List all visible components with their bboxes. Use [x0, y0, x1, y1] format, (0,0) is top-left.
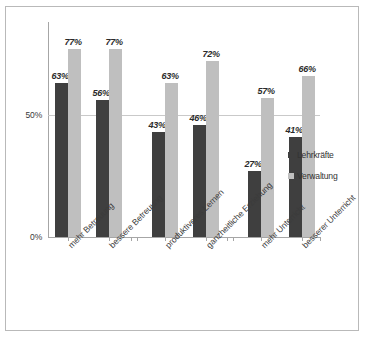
legend-label-lehrkraefte: Lehrkräfte — [297, 150, 334, 160]
legend-item-lehrkraefte[interactable]: Lehrkräfte — [288, 150, 362, 160]
bar-verwaltung-4 — [261, 98, 274, 237]
bar-value-label-lehrkraefte-1: 56% — [93, 88, 110, 98]
legend-label-verwaltung: Verwaltung — [297, 171, 338, 181]
bar-value-label-lehrkraefte-2: 43% — [149, 120, 166, 130]
bar-value-label-lehrkraefte-4: 27% — [245, 159, 262, 169]
bar-value-label-lehrkraefte-5: 41% — [286, 125, 303, 135]
bar-value-label-lehrkraefte-0: 63% — [52, 71, 69, 81]
bar-value-label-verwaltung-5: 66% — [299, 64, 316, 74]
bar-value-label-verwaltung-1: 77% — [106, 37, 123, 47]
bar-value-label-verwaltung-2: 63% — [162, 71, 179, 81]
legend-swatch-icon-verwaltung — [288, 173, 294, 179]
bar-value-label-verwaltung-4: 57% — [258, 86, 275, 96]
bar-verwaltung-0 — [68, 49, 81, 237]
chart-plot-area: 50% 0% 63%77%56%77%43%63%46%72%27%57%41%… — [0, 0, 366, 342]
bar-value-label-verwaltung-3: 72% — [203, 49, 220, 59]
bar-lehrkraefte-2 — [152, 132, 165, 237]
bar-value-label-verwaltung-0: 77% — [65, 37, 82, 47]
bar-value-label-lehrkraefte-3: 46% — [190, 113, 207, 123]
legend-item-verwaltung[interactable]: Verwaltung — [288, 171, 362, 181]
legend-swatch-icon-lehrkraefte — [288, 152, 294, 158]
bar-verwaltung-2 — [165, 83, 178, 237]
bar-lehrkraefte-0 — [55, 83, 68, 237]
chart-legend: Lehrkräfte Verwaltung — [288, 150, 362, 192]
